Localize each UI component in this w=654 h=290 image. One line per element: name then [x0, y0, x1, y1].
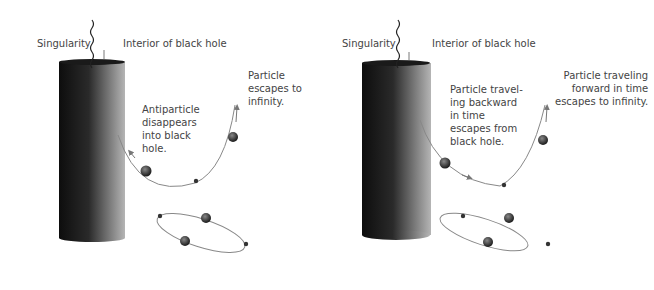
left-black-hole-cylinder — [59, 59, 125, 242]
left-particle-label: Particle escapes to infinity. — [248, 69, 302, 108]
diagram-graphics — [0, 0, 654, 290]
right-virtual-pair-loop — [436, 205, 532, 258]
left-antiparticle-label: Antiparticle disappears into black hole. — [142, 103, 200, 155]
left-interior-label: Interior of black hole — [123, 37, 227, 50]
left-singularity-label: Singularity — [37, 37, 91, 50]
right-particle-label: Particle traveling forward in time escap… — [555, 69, 648, 108]
right-antiparticle-label: Particle travel- ing backward in time es… — [450, 83, 523, 148]
right-interior-label: Interior of black hole — [432, 37, 536, 50]
right-black-hole-cylinder — [362, 60, 431, 240]
right-singularity-label: Singularity — [342, 37, 396, 50]
left-virtual-pair-loop — [153, 205, 249, 260]
